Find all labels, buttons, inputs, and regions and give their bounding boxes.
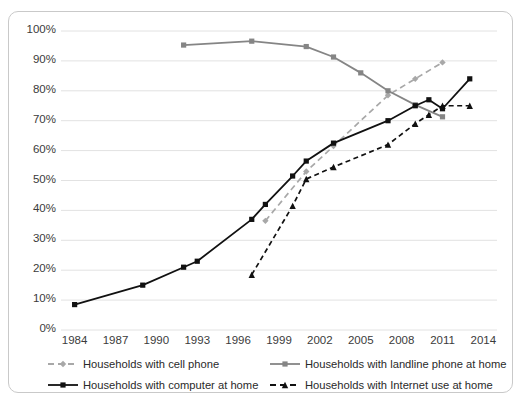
data-point-marker (467, 76, 472, 81)
legend-item[interactable]: Households with Internet use at home (268, 376, 493, 393)
data-point-marker (439, 59, 445, 65)
data-point-marker (72, 302, 77, 307)
y-tick-label: 90% (16, 53, 56, 65)
data-point-marker (331, 54, 336, 59)
data-point-marker (282, 361, 287, 366)
series-line (184, 41, 443, 117)
x-tick-label: 1996 (216, 334, 260, 346)
data-point-marker (195, 259, 200, 264)
y-tick-label: 20% (16, 262, 56, 274)
x-tick-label: 1984 (53, 334, 97, 346)
data-point-marker (385, 118, 390, 123)
data-point-marker (358, 70, 363, 75)
series-households-with-landline-phone-at-home (181, 39, 445, 120)
data-point-marker (304, 158, 309, 163)
series-line (265, 62, 442, 220)
legend-item[interactable]: Households with cell phone (46, 355, 219, 372)
legend-label: Households with computer at home (83, 379, 258, 391)
data-point-marker (440, 114, 445, 119)
x-tick-label: 2011 (421, 334, 465, 346)
data-point-marker (426, 97, 431, 102)
legend-key-icon (268, 358, 302, 370)
data-point-marker (249, 39, 254, 44)
legend-key-icon (268, 379, 302, 391)
data-point-marker (413, 103, 418, 108)
data-point-marker (385, 88, 390, 93)
y-tick-label: 80% (16, 83, 56, 95)
x-tick-label: 1987 (94, 334, 138, 346)
legend-key-icon (46, 358, 80, 370)
data-point-marker (140, 283, 145, 288)
data-point-marker (304, 44, 309, 49)
y-tick-label: 70% (16, 113, 56, 125)
data-point-marker (249, 217, 254, 222)
data-point-marker (181, 42, 186, 47)
series-households-with-computer-at-home (72, 76, 472, 307)
data-point-marker (289, 203, 295, 209)
legend-item[interactable]: Households with landline phone at home (268, 355, 507, 372)
legend-label: Households with cell phone (83, 358, 219, 370)
y-tick-label: 30% (16, 232, 56, 244)
y-tick-label: 50% (16, 173, 56, 185)
gridlines (61, 31, 497, 330)
data-point-marker (331, 141, 336, 146)
y-tick-label: 10% (16, 292, 56, 304)
y-tick-label: 100% (16, 23, 56, 35)
data-point-marker (60, 360, 66, 366)
y-tick-label: 0% (16, 322, 56, 334)
x-tick-label: 1993 (175, 334, 219, 346)
y-tick-label: 60% (16, 143, 56, 155)
data-point-marker (290, 173, 295, 178)
series-households-with-internet-use-at-home (249, 103, 473, 278)
x-tick-label: 2005 (339, 334, 383, 346)
legend-label: Households with landline phone at home (305, 358, 507, 370)
x-tick-label: 1990 (134, 334, 178, 346)
data-point-marker (412, 120, 418, 126)
legend-label: Households with Internet use at home (305, 379, 493, 391)
legend-item[interactable]: Households with computer at home (46, 376, 258, 393)
series-line (75, 79, 470, 305)
line-chart-plot (0, 0, 529, 411)
data-point-marker (181, 265, 186, 270)
data-point-marker (385, 141, 391, 147)
x-tick-label: 1999 (257, 334, 301, 346)
x-tick-label: 2002 (298, 334, 342, 346)
legend-key-icon (46, 379, 80, 391)
data-point-marker (263, 202, 268, 207)
data-point-marker (60, 382, 65, 387)
data-point-marker (330, 164, 336, 170)
data-point-marker (303, 176, 309, 182)
x-tick-label: 2008 (380, 334, 424, 346)
chart-legend: Households with cell phoneHouseholds wit… (46, 355, 490, 395)
series-households-with-cell-phone (262, 59, 446, 224)
series-layer (72, 39, 473, 308)
x-tick-label: 2014 (461, 334, 505, 346)
y-tick-label: 40% (16, 202, 56, 214)
